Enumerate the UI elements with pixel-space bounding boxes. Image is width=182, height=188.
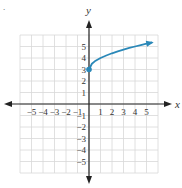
start-point-dot	[86, 67, 92, 73]
y-tick-label: −2	[76, 122, 86, 132]
x-tick-label: −5	[27, 107, 37, 117]
function-graph: xy−5−4−3−2−112345−5−4−3−2−112345	[0, 0, 182, 188]
x-axis-arrow-left-icon	[4, 101, 12, 107]
x-tick-label: −3	[50, 107, 60, 117]
x-tick-label: 1	[98, 107, 103, 117]
x-tick-label: 4	[133, 107, 138, 117]
curve-arrow-icon	[146, 41, 154, 47]
x-axis-label: x	[174, 98, 180, 110]
y-tick-label: 1	[82, 88, 87, 98]
y-axis-arrow-down-icon	[86, 176, 92, 184]
x-tick-label: −2	[61, 107, 71, 117]
y-axis-label: y	[85, 4, 91, 16]
y-tick-label: −1	[76, 111, 86, 121]
x-tick-label: −4	[38, 107, 48, 117]
y-tick-label: 4	[82, 53, 87, 63]
x-tick-label: 5	[144, 107, 149, 117]
x-axis-arrow-right-icon	[164, 101, 172, 107]
y-axis-arrow-up-icon	[86, 20, 92, 28]
y-tick-label: −4	[76, 145, 86, 155]
y-tick-label: 3	[82, 65, 87, 75]
y-tick-label: −3	[76, 134, 86, 144]
function-curve	[86, 41, 154, 72]
y-tick-label: 2	[82, 76, 87, 86]
tick-labels: xy−5−4−3−2−112345−5−4−3−2−112345	[27, 4, 180, 167]
x-tick-label: 3	[121, 107, 126, 117]
x-tick-label: 2	[110, 107, 115, 117]
y-tick-label: −5	[76, 157, 86, 167]
y-tick-label: 5	[82, 42, 87, 52]
